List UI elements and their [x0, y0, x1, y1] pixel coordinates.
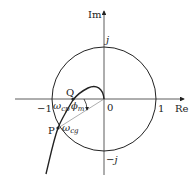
tick-minus-j: −j	[106, 154, 117, 165]
real-axis-label: Re	[175, 103, 189, 114]
tick-minus-one: −1	[37, 103, 52, 114]
point-q-label: Q	[66, 87, 74, 98]
point-p-label: P	[48, 125, 55, 136]
point-p	[56, 126, 59, 129]
phase-margin-label: ϕm	[71, 100, 85, 113]
tick-one: 1	[158, 103, 164, 114]
omega-cp-label: ωcp	[53, 100, 70, 113]
origin-label: 0	[107, 102, 113, 113]
tick-j: j	[104, 34, 109, 45]
imag-axis-label: Im	[88, 9, 102, 20]
nyquist-diagram: Im Re 0 −1 1 j −j Q P ωcp ωcg ϕm	[0, 0, 194, 189]
